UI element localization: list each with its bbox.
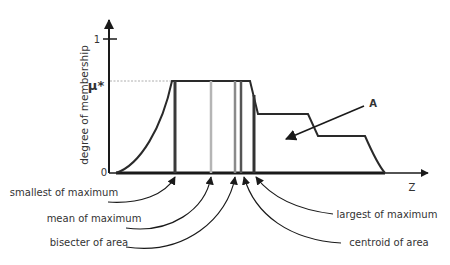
defuzzification-diagram: 1 μ* 0 degree of membership Z A smallest… xyxy=(0,0,450,265)
mom-label: mean of maximum xyxy=(47,213,142,224)
coa-label: centroid of area xyxy=(349,237,428,248)
y-axis-label: degree of membership xyxy=(78,45,90,165)
set-a-label: A xyxy=(369,98,377,109)
boa-label: bisecter of area xyxy=(50,237,128,248)
set-a-pointer: A xyxy=(286,98,377,139)
membership-curve xyxy=(116,81,385,173)
tick-zero-label: 0 xyxy=(101,167,107,178)
mu-star-label: μ* xyxy=(88,78,105,93)
annotation-mom: mean of maximum xyxy=(47,177,211,229)
annotation-som: smallest of maximum xyxy=(10,177,175,202)
x-axis-label: Z xyxy=(409,182,416,193)
som-label: smallest of maximum xyxy=(10,187,118,198)
lom-label: largest of maximum xyxy=(337,209,438,220)
tick-one-label: 1 xyxy=(94,34,100,45)
y-axis: 1 μ* 0 degree of membership xyxy=(78,20,117,178)
